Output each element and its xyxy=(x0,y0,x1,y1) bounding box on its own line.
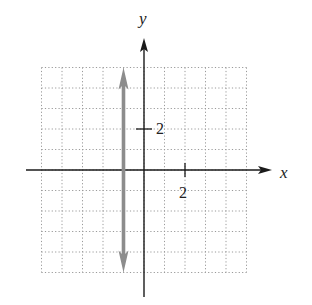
x-tick-label-2: 2 xyxy=(179,184,187,201)
x-axis-label: x xyxy=(279,163,288,182)
y-axis-label: y xyxy=(137,9,147,28)
axes xyxy=(26,38,272,297)
coordinate-plane: y x 2 2 xyxy=(0,0,312,305)
y-tick-label-2: 2 xyxy=(156,120,164,137)
